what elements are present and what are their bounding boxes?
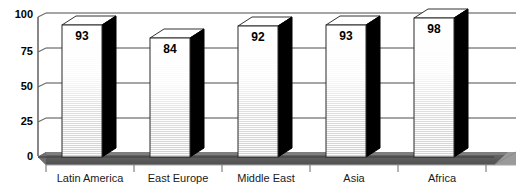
bar-value-label-0: 93 (75, 29, 89, 43)
bar-side-face-1 (190, 29, 204, 157)
bar-chart-3d: 100 75 50 25 0 (0, 0, 520, 190)
category-label-2: Middle East (237, 172, 294, 184)
bar-side-face-3 (366, 16, 380, 157)
bar-value-label-3: 93 (339, 29, 353, 43)
bar-value-label-4: 98 (427, 22, 441, 36)
y-axis-label-100: 100 (15, 8, 33, 20)
y-axis-label-50: 50 (21, 80, 33, 92)
bar-front-fade-0 (62, 25, 102, 157)
bar-front-fade-4 (414, 18, 454, 157)
category-label-1: East Europe (148, 172, 209, 184)
bar-value-label-2: 92 (251, 30, 265, 44)
category-label-0: Latin America (57, 172, 125, 184)
category-label-3: Asia (343, 172, 365, 184)
chart-canvas: 100 75 50 25 0 (0, 0, 520, 190)
bar-side-face-0 (102, 16, 116, 157)
bar-side-face-2 (278, 17, 292, 157)
y-axis-label-25: 25 (21, 115, 33, 127)
y-axis-label-75: 75 (21, 45, 33, 57)
bar-front-fade-3 (326, 25, 366, 157)
y-axis-label-0: 0 (27, 150, 33, 162)
bar-value-label-1: 84 (163, 42, 177, 56)
bar-front-fade-2 (238, 26, 278, 157)
category-label-4: Africa (428, 172, 457, 184)
bar-side-face-4 (454, 9, 468, 157)
